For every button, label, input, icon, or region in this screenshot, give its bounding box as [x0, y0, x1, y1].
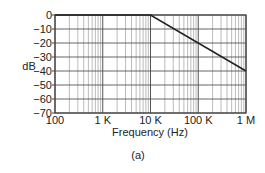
figure-caption: (a): [131, 149, 144, 161]
y-tick-label: −40: [33, 65, 52, 77]
y-axis-ticks: 0−10−20−30−40−50−60−70: [33, 9, 55, 119]
y-tick-label: −20: [33, 37, 52, 49]
x-axis-label: Frequency (Hz): [112, 126, 188, 138]
x-tick-label: 100 K: [184, 114, 213, 126]
x-tick-label: 1 K: [94, 114, 111, 126]
y-tick-label: −10: [33, 23, 52, 35]
x-tick-label: 1 M: [237, 114, 255, 126]
plot-grid: [55, 15, 246, 113]
y-tick-label: −50: [33, 79, 52, 91]
frequency-response-chart: 0−10−20−30−40−50−60−70 1001 K10 K100 K1 …: [0, 0, 265, 173]
x-tick-label: 10 K: [139, 114, 162, 126]
y-tick-label: −60: [33, 93, 52, 105]
y-tick-label: −30: [33, 51, 52, 63]
x-tick-label: 100: [46, 114, 64, 126]
y-axis-label: dB: [22, 60, 35, 72]
y-tick-label: 0: [46, 9, 52, 21]
x-axis-ticks: 1001 K10 K100 K1 M: [46, 114, 255, 126]
